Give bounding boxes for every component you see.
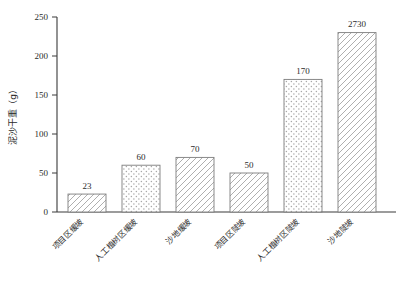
bar-value-2: 70 <box>191 144 201 154</box>
y-tick-label-100: 100 <box>35 129 49 139</box>
x-tick-label-5: 沙地陡坡 <box>326 216 356 246</box>
x-tick-label-0: 项目区缓坡 <box>50 216 85 251</box>
bar-2[interactable] <box>176 157 214 212</box>
x-tick-label-1: 人工植树区缓坡 <box>93 216 140 263</box>
y-axis-title: 泥沙干重（g） <box>7 85 18 145</box>
bar-0[interactable] <box>68 194 106 212</box>
y-axis-tick-labels: 0 50 100 150 200 250 <box>35 12 49 217</box>
y-tick-label-50: 50 <box>39 168 49 178</box>
x-tick-label-3: 项目区陡坡 <box>212 216 247 251</box>
bar-5[interactable] <box>338 33 376 212</box>
y-tick-label-200: 200 <box>35 51 49 61</box>
x-axis-category-labels: 项目区缓坡 人工植树区缓坡 沙地缓坡 项目区陡坡 人工植树区陡坡 沙地陡坡 <box>50 216 355 263</box>
bar-chart-svg: 0 50 100 150 200 250 泥沙干重（g） 23 60 70 50… <box>0 0 403 295</box>
bar-1[interactable] <box>122 165 160 212</box>
bar-4[interactable] <box>284 79 322 212</box>
bar-value-0: 23 <box>83 181 93 191</box>
y-tick-label-250: 250 <box>35 12 49 22</box>
bar-3[interactable] <box>230 173 268 212</box>
x-tick-label-4: 人工植树区陡坡 <box>255 216 302 263</box>
y-tick-label-150: 150 <box>35 90 49 100</box>
y-axis-ticks <box>52 17 57 212</box>
bar-value-5: 2730 <box>348 19 367 29</box>
y-axis-label: 泥沙干重（g） <box>7 85 18 145</box>
x-tick-label-2: 沙地缓坡 <box>164 216 194 246</box>
bar-value-3: 50 <box>245 160 255 170</box>
chart-container: 0 50 100 150 200 250 泥沙干重（g） 23 60 70 50… <box>0 0 403 295</box>
y-tick-label-0: 0 <box>44 207 49 217</box>
bar-value-4: 170 <box>296 66 310 76</box>
bars-group <box>68 33 376 212</box>
bar-value-1: 60 <box>137 152 147 162</box>
